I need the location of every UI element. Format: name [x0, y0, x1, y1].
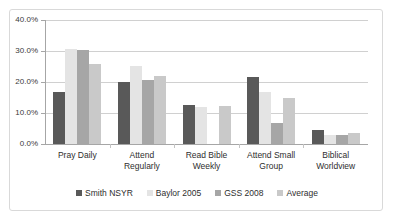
y-axis-tick-label: 0.0% [20, 140, 38, 148]
bar[interactable] [348, 133, 360, 144]
legend-swatch-icon [147, 190, 153, 196]
bar[interactable] [219, 106, 231, 144]
x-axis-category-label: AttendRegularly [110, 150, 175, 172]
x-axis-tick-mark [110, 144, 111, 148]
x-axis-tick-mark [303, 144, 304, 148]
x-axis-category-label: Pray Daily [45, 150, 110, 161]
bar-group [312, 20, 360, 144]
chart-container: 0.0%10.0%20.0%30.0%40.0% Pray DailyAtten… [0, 0, 394, 222]
legend-label: Smith NSYR [85, 188, 133, 198]
bar[interactable] [324, 135, 336, 144]
bar-group [53, 20, 101, 144]
legend-swatch-icon [215, 190, 221, 196]
bar[interactable] [77, 50, 89, 144]
y-axis-tick-mark [41, 51, 45, 52]
legend-swatch-icon [277, 190, 283, 196]
category-label-line: Weekly [174, 161, 239, 172]
bar-group [247, 20, 295, 144]
bar[interactable] [271, 123, 283, 144]
x-axis-category-label: Read BibleWeekly [174, 150, 239, 172]
legend-item-gss-2008[interactable]: GSS 2008 [215, 188, 263, 198]
y-axis-tick-label: 20.0% [15, 78, 38, 86]
bar[interactable] [336, 135, 348, 144]
category-label-line: Worldview [303, 161, 368, 172]
x-axis-tick-mark [174, 144, 175, 148]
bar[interactable] [283, 98, 295, 145]
legend-label: Baylor 2005 [156, 188, 201, 198]
category-label-line: Attend Small [239, 150, 304, 161]
bar[interactable] [53, 92, 65, 144]
legend-item-average[interactable]: Average [277, 188, 318, 198]
legend-item-smith-nsyr[interactable]: Smith NSYR [76, 188, 133, 198]
bar[interactable] [247, 77, 259, 144]
bar[interactable] [142, 80, 154, 144]
bar[interactable] [183, 105, 195, 144]
y-axis-tick-mark [41, 144, 45, 145]
y-axis-tick-label: 10.0% [15, 109, 38, 117]
y-axis-tick-mark [41, 20, 45, 21]
category-label-line: Regularly [110, 161, 175, 172]
y-axis-tick-label: 30.0% [15, 47, 38, 55]
legend-swatch-icon [76, 190, 82, 196]
chart-legend: Smith NSYRBaylor 2005GSS 2008Average [0, 188, 394, 198]
x-axis-category-label: BiblicalWorldview [303, 150, 368, 172]
category-label-line: Pray Daily [45, 150, 110, 161]
y-axis-tick-mark [41, 82, 45, 83]
bar[interactable] [89, 64, 101, 144]
y-axis-tick-label: 40.0% [15, 16, 38, 24]
category-label-line: Biblical [303, 150, 368, 161]
y-axis-tick-mark [41, 113, 45, 114]
legend-label: Average [286, 188, 318, 198]
y-axis-line [45, 20, 46, 145]
plot-area [45, 20, 368, 144]
bar[interactable] [118, 82, 130, 144]
bar[interactable] [130, 66, 142, 144]
bar-group [118, 20, 166, 144]
bar[interactable] [259, 92, 271, 144]
bar[interactable] [195, 107, 207, 145]
bar[interactable] [312, 130, 324, 144]
x-axis-category-label: Attend SmallGroup [239, 150, 304, 172]
bar[interactable] [65, 49, 77, 144]
category-label-line: Attend [110, 150, 175, 161]
x-axis-tick-mark [239, 144, 240, 148]
category-label-line: Read Bible [174, 150, 239, 161]
category-label-line: Group [239, 161, 304, 172]
bar[interactable] [154, 76, 166, 144]
legend-item-baylor-2005[interactable]: Baylor 2005 [147, 188, 201, 198]
legend-label: GSS 2008 [224, 188, 263, 198]
bar-group [183, 20, 231, 144]
x-axis-line [45, 144, 368, 145]
